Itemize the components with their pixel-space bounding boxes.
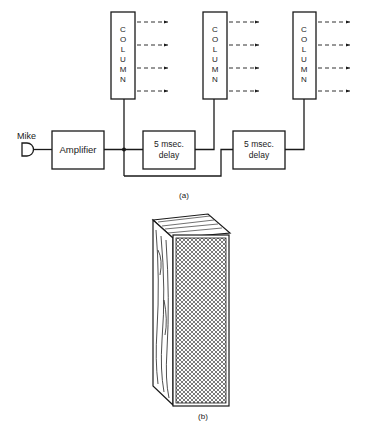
svg-text:O: O <box>212 35 218 44</box>
delay-2-line1: 5 msec. <box>244 139 274 149</box>
column-2-label: C O L U M N <box>212 25 219 84</box>
column-3-label: C O L U M N <box>301 25 308 84</box>
svg-text:L: L <box>302 45 307 54</box>
column-1-label: C O L U M N <box>120 25 127 84</box>
svg-text:M: M <box>120 65 127 74</box>
delay-1-line1: 5 msec. <box>154 139 184 149</box>
microphone-icon <box>22 143 52 156</box>
delay-2-line2: delay <box>249 150 270 160</box>
speaker-cabinet <box>153 214 230 406</box>
mike-label: Mike <box>17 131 36 141</box>
svg-text:N: N <box>120 75 126 84</box>
delay-1-line2: delay <box>159 150 180 160</box>
svg-text:M: M <box>212 65 219 74</box>
svg-text:N: N <box>212 75 218 84</box>
svg-text:C: C <box>120 25 126 34</box>
caption-a: (a) <box>179 191 189 200</box>
svg-text:C: C <box>212 25 218 34</box>
svg-text:M: M <box>301 65 308 74</box>
caption-b: (b) <box>198 412 208 421</box>
svg-text:U: U <box>301 55 307 64</box>
svg-text:L: L <box>213 45 218 54</box>
amplifier-label: Amplifier <box>60 144 97 155</box>
svg-text:U: U <box>212 55 218 64</box>
svg-text:N: N <box>301 75 307 84</box>
sound-arrows <box>137 22 350 91</box>
column-speaker-diagram: Mike Amplifier 5 msec. delay 5 msec. del… <box>0 0 365 439</box>
cabinet-side <box>153 220 173 405</box>
svg-text:C: C <box>301 25 307 34</box>
svg-text:U: U <box>120 55 126 64</box>
svg-text:O: O <box>301 35 307 44</box>
svg-text:L: L <box>121 45 126 54</box>
svg-text:O: O <box>120 35 126 44</box>
